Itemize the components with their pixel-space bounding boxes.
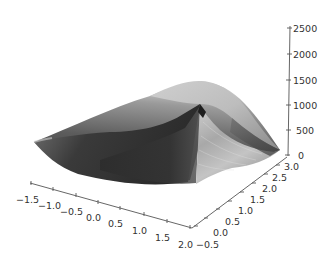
z-axis: 2500 2000 1500 1000 500 0	[285, 23, 317, 161]
x-tick-label: 0.0	[86, 212, 101, 223]
z-tick-label: 500	[296, 125, 314, 136]
x-tick-label: 0.5	[108, 218, 123, 229]
z-tick-label: 0	[298, 150, 304, 161]
x-axis: −1.5 −1.0 −0.5 0.0 0.5 1.0 1.5 2.0	[16, 181, 193, 250]
z-tick-label: 2500	[293, 23, 317, 34]
y-tick-label: 1.0	[238, 205, 253, 216]
surface-plot: 2500 2000 1500 1000 500 0	[0, 0, 327, 258]
z-tick-label: 1500	[293, 75, 317, 86]
y-tick-label: 2.5	[272, 172, 287, 183]
y-tick-label: −0.5	[196, 239, 219, 250]
z-tick-label: 1000	[293, 100, 317, 111]
y-tick-label: 0.5	[225, 216, 240, 227]
x-tick-label: 1.0	[132, 225, 147, 236]
x-tick-label: −1.5	[16, 194, 39, 205]
y-tick-label: 3.0	[284, 161, 299, 172]
x-tick-label: −0.5	[60, 206, 83, 217]
x-tick-label: 2.0	[178, 239, 193, 250]
y-tick-label: 1.5	[250, 194, 265, 205]
x-tick-label: −1.0	[38, 200, 61, 211]
z-tick-label: 2000	[293, 49, 317, 60]
surface-mesh	[34, 81, 280, 185]
y-tick-label: 0.0	[213, 227, 228, 238]
x-tick-label: 1.5	[155, 232, 170, 243]
y-tick-label: 2.0	[262, 183, 277, 194]
